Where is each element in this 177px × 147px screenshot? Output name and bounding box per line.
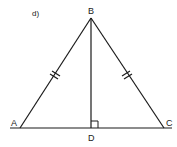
tick-mark-ab (50, 71, 60, 79)
triangle-diagram: d) B A C D (0, 0, 177, 147)
part-label: d) (32, 9, 39, 18)
right-angle-marker (91, 121, 98, 128)
vertex-label-a: A (11, 118, 17, 128)
vertex-label-b: B (88, 6, 94, 16)
vertex-label-c: C (166, 118, 173, 128)
vertex-label-d: D (88, 133, 95, 143)
